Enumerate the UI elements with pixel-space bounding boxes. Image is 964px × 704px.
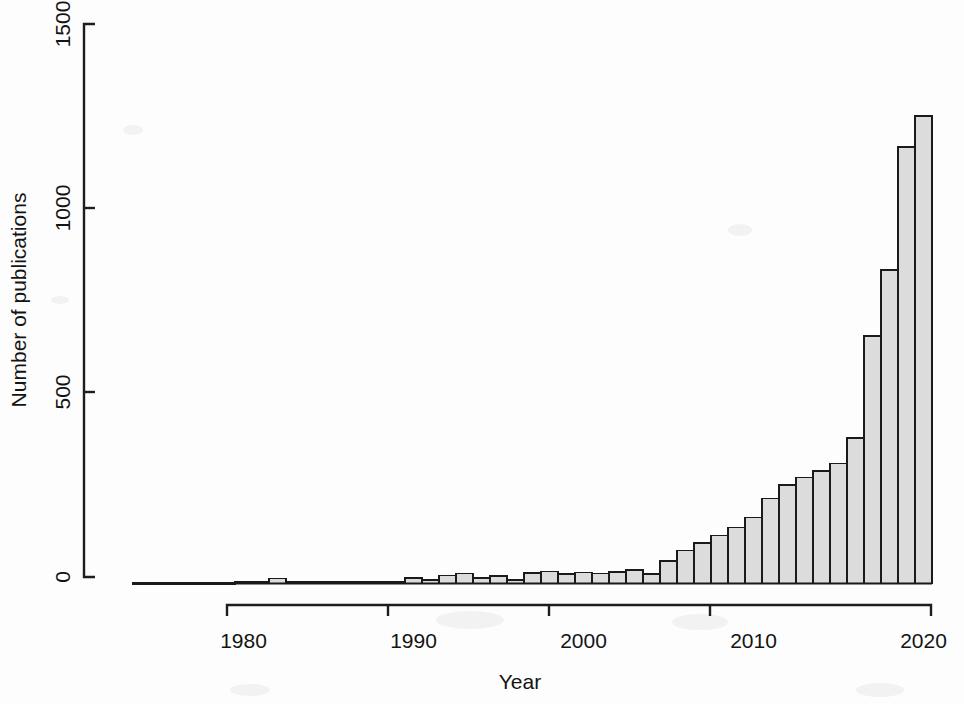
bar <box>881 270 898 583</box>
bar <box>592 574 609 584</box>
bar <box>439 575 456 583</box>
bar <box>762 498 779 583</box>
bar <box>779 485 796 583</box>
bar <box>728 528 745 584</box>
bar <box>830 464 847 584</box>
bar <box>541 572 558 584</box>
bar <box>558 574 575 584</box>
bar <box>456 574 473 584</box>
x-tick-labels: 19801990200020102020 <box>220 629 947 652</box>
scan-artifacts <box>51 125 904 697</box>
bar <box>524 573 541 583</box>
bar <box>864 336 881 583</box>
y-tick-label-1000: 1000 <box>51 185 74 232</box>
y-tick-label-1500: 1500 <box>51 1 74 48</box>
bar <box>898 147 915 584</box>
bars-group <box>133 116 932 584</box>
bar <box>813 471 830 584</box>
bar <box>643 574 660 583</box>
x-tick-label-1990: 1990 <box>390 629 437 652</box>
x-axis-title: Year <box>499 670 541 693</box>
x-axis <box>227 605 931 616</box>
bar <box>490 576 507 584</box>
bar <box>796 477 813 583</box>
bar <box>626 570 643 583</box>
bar <box>847 438 864 584</box>
x-tick-label-2010: 2010 <box>730 629 777 652</box>
bar <box>575 572 592 583</box>
bar <box>694 543 711 583</box>
bar <box>660 561 677 583</box>
y-tick-label-0: 0 <box>51 571 74 583</box>
x-tick-label-1980: 1980 <box>220 629 267 652</box>
y-tick-label-500: 500 <box>51 374 74 409</box>
y-tick-labels: 0 500 1000 1500 <box>51 1 74 583</box>
y-axis-title: Number of publications <box>7 193 30 408</box>
bar <box>745 518 762 584</box>
bar <box>915 116 932 583</box>
bar <box>711 536 728 584</box>
bar <box>677 551 694 584</box>
x-tick-label-2000: 2000 <box>560 629 607 652</box>
x-tick-label-2020: 2020 <box>900 629 947 652</box>
chart-svg: 0 500 1000 1500 Number of publications 1… <box>0 0 964 704</box>
publications-bar-chart: 0 500 1000 1500 Number of publications 1… <box>0 0 964 704</box>
y-axis <box>84 24 95 577</box>
bar <box>609 572 626 583</box>
